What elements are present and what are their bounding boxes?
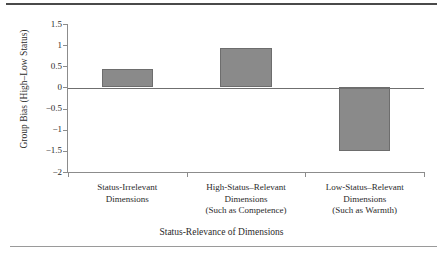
category-label-line: Dimensions	[187, 194, 306, 206]
plot-area	[68, 24, 424, 172]
category-label: Low-Status–RelevantDimensions(Such as Wa…	[305, 182, 424, 217]
category-labels: Status-IrrelevantDimensionsHigh-Status–R…	[68, 182, 424, 228]
category-label: Status-IrrelevantDimensions	[68, 182, 187, 205]
y-tick-label: 1	[0, 41, 62, 50]
category-label-line: (Such as Warmth)	[305, 205, 424, 217]
x-tick-mark	[305, 172, 306, 177]
zero-baseline	[68, 88, 424, 89]
x-tick-mark	[68, 172, 69, 177]
category-label-line: Low-Status–Relevant	[305, 182, 424, 194]
x-tick-mark	[187, 172, 188, 177]
y-tick-label: −0.5	[0, 104, 62, 113]
x-axis-line	[67, 172, 424, 173]
category-label-line: (Such as Competence)	[187, 205, 306, 217]
category-label-line: Dimensions	[68, 194, 187, 206]
y-tick-label: −1	[0, 125, 62, 134]
x-axis-title: Status-Relevance of Dimensions	[0, 227, 443, 238]
y-tick-label: 0	[0, 83, 62, 92]
top-rule	[6, 3, 437, 5]
bar	[339, 87, 390, 150]
y-tick-label: 0.5	[0, 62, 62, 71]
category-label-line: High-Status–Relevant	[187, 182, 306, 194]
category-label-line: Dimensions	[305, 194, 424, 206]
y-tick-label: −2	[0, 168, 62, 177]
figure: Group Bias (High–Low Status) 1.510.50−0.…	[0, 0, 443, 255]
category-label: High-Status–RelevantDimensions(Such as C…	[187, 182, 306, 217]
bar	[102, 69, 153, 87]
category-label-line: Status-Irrelevant	[68, 182, 187, 194]
bar	[220, 48, 271, 87]
y-tick-label: −1.5	[0, 146, 62, 155]
y-tick-label: 1.5	[0, 20, 62, 29]
x-tick-mark	[424, 172, 425, 177]
bottom-rule	[10, 246, 437, 247]
